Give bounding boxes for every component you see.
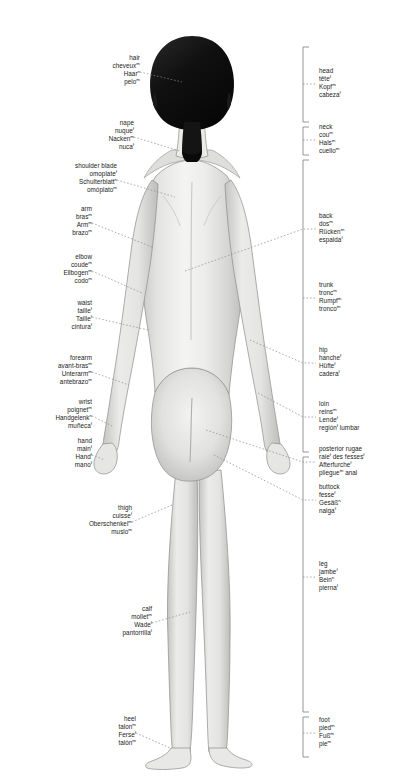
label-shoulder-blade[interactable]: shoulder blade omoplatef Schulterblattn … — [25, 162, 117, 194]
label-arm-term-1: brasm — [0, 213, 92, 221]
label-foot-term-3: piem — [319, 740, 395, 748]
label-loin-term-0: loin — [319, 400, 395, 408]
label-neck-term-1: coum — [319, 131, 395, 139]
label-buttock[interactable]: buttock fessef Gesäßn nalgaf — [319, 483, 395, 515]
label-leg-term-3: piernaf — [319, 584, 395, 592]
bracket-head — [303, 47, 309, 122]
label-trunk-term-1: troncm — [319, 289, 395, 297]
label-hair-term-1: cheveuxm — [48, 62, 140, 70]
leader-thigh — [132, 505, 172, 522]
label-wrist-term-0: wrist — [0, 398, 92, 406]
label-trunk-term-0: trunk — [319, 281, 395, 289]
leader-buttock — [214, 455, 316, 500]
label-elbow[interactable]: elbow coudem Ellbogenm codom — [0, 253, 92, 285]
label-nape-term-0: nape — [42, 119, 134, 127]
right-hand — [267, 443, 290, 474]
label-calf-term-0: calf — [60, 605, 152, 613]
label-back-term-3: espaldaf — [319, 236, 395, 244]
label-arm-term-0: arm — [0, 205, 92, 213]
label-forearm-term-0: forearm — [0, 354, 92, 362]
label-elbow-term-3: codom — [0, 277, 92, 285]
label-head[interactable]: head têtef Kopfm cabezaf — [319, 67, 395, 99]
left-hand — [94, 443, 117, 474]
label-posterior-rugae-term-3: plieguem anal — [319, 469, 395, 477]
bracket-trunk — [303, 160, 309, 452]
label-nape[interactable]: nape nuquef Nackenm nucaf — [42, 119, 134, 151]
label-hip-term-1: hanchef — [319, 354, 395, 362]
label-shoulder-blade-term-3: omóplatom — [25, 186, 117, 194]
right-foot — [209, 748, 252, 768]
label-wrist[interactable]: wrist poignetm Handgelenkn muñecaf — [0, 398, 92, 430]
label-thigh-term-1: cuissef — [40, 512, 132, 520]
label-shoulder-blade-term-0: shoulder blade — [25, 162, 117, 170]
label-hand[interactable]: hand mainf Handf manof — [0, 437, 92, 469]
label-posterior-rugae[interactable]: posterior rugae raief des fessesf Afterf… — [319, 445, 395, 477]
label-loin-term-1: reinsm — [319, 408, 395, 416]
label-arm[interactable]: arm brasm Armm brazom — [0, 205, 92, 237]
label-elbow-term-1: coudem — [0, 261, 92, 269]
label-calf-term-1: molletm — [60, 613, 152, 621]
label-head-term-1: têtef — [319, 75, 395, 83]
anatomy-diagram — [0, 0, 396, 784]
label-arm-term-3: brazom — [0, 229, 92, 237]
label-hair-term-0: hair — [48, 54, 140, 62]
label-hand-term-0: hand — [0, 437, 92, 445]
label-leg[interactable]: leg jambef Beinn piernaf — [319, 560, 395, 592]
label-wrist-term-3: muñecaf — [0, 422, 92, 430]
leader-nape — [134, 137, 180, 151]
label-trunk-term-3: troncom — [319, 305, 395, 313]
label-waist-term-0: waist — [0, 299, 92, 307]
label-calf-term-3: pantorrillaf — [60, 629, 152, 637]
region-brackets — [303, 47, 309, 757]
label-hand-term-1: mainf — [0, 445, 92, 453]
label-hip-term-0: hip — [319, 346, 395, 354]
left-foot — [146, 748, 191, 770]
leader-heel — [136, 733, 170, 748]
right-leg — [199, 470, 230, 752]
label-shoulder-blade-term-1: omoplatef — [25, 170, 117, 178]
label-waist-term-1: taillef — [0, 307, 92, 315]
label-buttock-term-0: buttock — [319, 483, 395, 491]
label-waist[interactable]: waist taillef Taillef cinturaf — [0, 299, 92, 331]
label-foot[interactable]: foot piedm Fußm piem — [319, 716, 395, 748]
label-trunk[interactable]: trunk troncm Rumpfm troncom — [319, 281, 395, 313]
label-heel-term-0: heel — [44, 715, 136, 723]
label-heel-term-3: talónm — [44, 739, 136, 747]
label-forearm[interactable]: forearm avant-brasm Unterarmm antebrazom — [0, 354, 92, 386]
label-heel-term-1: talonm — [44, 723, 136, 731]
left-leg — [167, 470, 197, 752]
label-neck-term-3: cuellom — [319, 147, 395, 155]
label-neck[interactable]: neck coum Halsm cuellom — [319, 123, 395, 155]
label-loin-term-3: regiónf lumbar — [319, 424, 395, 432]
label-wrist-term-1: poignetm — [0, 406, 92, 414]
label-posterior-rugae-term-1: raief des fessesf — [319, 453, 395, 461]
label-loin[interactable]: loin reinsm Lendef regiónf lumbar — [319, 400, 395, 432]
label-hip-term-3: caderaf — [319, 370, 395, 378]
label-heel[interactable]: heel talonm Fersef talónm — [44, 715, 136, 747]
label-waist-term-3: cinturaf — [0, 323, 92, 331]
label-calf[interactable]: calf molletm Wadef pantorrillaf — [60, 605, 152, 637]
label-hand-term-3: manof — [0, 461, 92, 469]
label-thigh-term-0: thigh — [40, 504, 132, 512]
head-hair — [150, 36, 234, 130]
label-thigh[interactable]: thigh cuissef Oberschenkelm muslom — [40, 504, 132, 536]
label-head-term-3: cabezaf — [319, 91, 395, 99]
label-back[interactable]: back dosm Rückenm espaldaf — [319, 212, 395, 244]
bracket-neck — [303, 127, 309, 155]
label-back-term-1: dosm — [319, 220, 395, 228]
label-thigh-term-3: muslom — [40, 528, 132, 536]
bracket-foot — [303, 717, 309, 757]
label-nape-term-3: nucaf — [42, 143, 134, 151]
label-hair-term-3: pelom — [48, 78, 140, 86]
bracket-leg — [303, 457, 309, 712]
label-hair[interactable]: hair cheveuxm Haarn pelom — [48, 54, 140, 86]
label-forearm-term-1: avant-brasm — [0, 362, 92, 370]
label-buttock-term-1: fessef — [319, 491, 395, 499]
label-leg-term-1: jambef — [319, 568, 395, 576]
label-elbow-term-0: elbow — [0, 253, 92, 261]
label-leg-term-0: leg — [319, 560, 395, 568]
label-forearm-term-3: antebrazom — [0, 378, 92, 386]
label-hip[interactable]: hip hanchef Hüftef caderaf — [319, 346, 395, 378]
label-nape-term-1: nuquef — [42, 127, 134, 135]
label-buttock-term-3: nalgaf — [319, 507, 395, 515]
